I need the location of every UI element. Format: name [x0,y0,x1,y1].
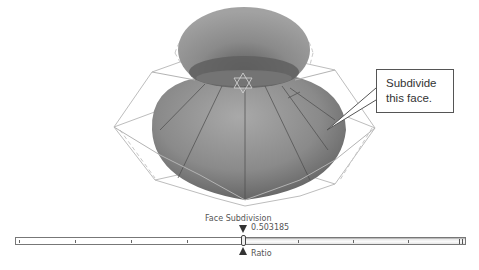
slider-tick [408,240,409,243]
value-marker-icon [239,225,247,233]
model-body [152,72,346,200]
slider-endcap [459,239,460,244]
slider-tick [187,240,188,243]
callout-box: Subdivide this face. [376,69,454,113]
slider-tick [131,240,132,243]
slider-endcap [462,239,463,244]
slider-tick [353,240,354,243]
slider-fill [244,238,465,244]
ratio-label: Ratio [251,249,272,258]
slider-tick [298,240,299,243]
ratio-marker-icon [239,247,247,255]
slider-tick [75,240,76,243]
slider-thumb[interactable] [241,235,246,246]
callout-line-2: this face. [386,91,453,106]
callout-line-1: Subdivide [386,76,453,91]
slider-tick [19,240,20,243]
slider-value: 0.503185 [251,223,289,232]
slider-title: Face Subdivision [205,214,271,223]
